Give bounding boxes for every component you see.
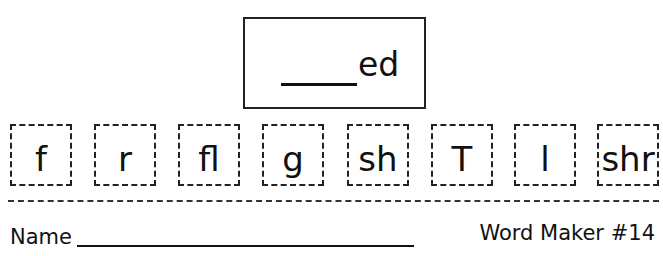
worksheet-title: Word Maker #14 xyxy=(479,221,655,245)
tile-text: T xyxy=(452,142,473,176)
tile-text: shr xyxy=(601,142,654,176)
blank-line xyxy=(281,83,357,86)
letter-tile[interactable]: sh xyxy=(347,124,409,186)
tile-text: fl xyxy=(198,142,219,176)
word-target-box: ed xyxy=(243,17,426,109)
letter-tile[interactable]: g xyxy=(262,124,324,186)
letter-tile[interactable]: shr xyxy=(597,124,659,186)
letter-tile[interactable]: fl xyxy=(178,124,240,186)
name-label: Name xyxy=(10,225,72,249)
letter-tile[interactable]: r xyxy=(94,124,156,186)
tile-text: g xyxy=(282,142,304,176)
name-field[interactable] xyxy=(77,245,414,247)
letter-tile[interactable]: f xyxy=(10,124,72,186)
tile-text: sh xyxy=(358,142,397,176)
word-suffix: ed xyxy=(358,47,399,83)
cut-line xyxy=(8,200,659,202)
letter-tile[interactable]: l xyxy=(514,124,576,186)
letter-tile[interactable]: T xyxy=(431,124,493,186)
tile-text: f xyxy=(35,142,47,176)
tile-text: r xyxy=(118,142,132,176)
tile-text: l xyxy=(540,142,549,176)
